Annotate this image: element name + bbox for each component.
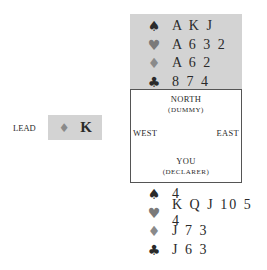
declarer-hearts-row: ♥ K Q J 10 5 4 <box>146 204 267 223</box>
dummy-clubs: 8 7 4 <box>172 74 210 90</box>
club-icon: ♣ <box>146 75 162 89</box>
heart-icon: ♥ <box>146 38 162 52</box>
dummy-spades-row: ♠ A K J <box>146 17 227 36</box>
dummy-hearts: A 6 3 2 <box>172 37 227 53</box>
north-label: NORTH <box>131 94 241 104</box>
lead-card-box: ♦ K <box>48 115 102 140</box>
dummy-diamonds: A 6 2 <box>172 55 212 71</box>
declarer-clubs-row: ♣ J 6 3 <box>146 241 267 260</box>
dummy-hand: ♠ A K J ♥ A 6 3 2 ♦ A 6 2 ♣ 8 7 4 <box>146 17 227 91</box>
diamond-icon: ♦ <box>56 122 72 134</box>
dummy-diamonds-row: ♦ A 6 2 <box>146 54 227 73</box>
heart-icon: ♥ <box>146 206 162 220</box>
table-frame: NORTH (DUMMY) WEST EAST YOU (DECLARER) <box>130 89 242 183</box>
spade-icon: ♠ <box>146 187 162 201</box>
declarer-clubs: J 6 3 <box>172 242 208 258</box>
dummy-spades: A K J <box>172 18 214 34</box>
spade-icon: ♠ <box>146 19 162 33</box>
declarer-hand: ♠ 4 ♥ K Q J 10 5 4 ♦ J 7 3 ♣ J 6 3 <box>146 185 267 259</box>
diamond-icon: ♦ <box>146 56 162 70</box>
west-label: WEST <box>133 128 157 138</box>
lead-label: LEAD <box>13 123 36 133</box>
lead-card: K <box>80 119 94 136</box>
east-label: EAST <box>217 128 239 138</box>
diamond-icon: ♦ <box>146 224 162 238</box>
south-label: YOU <box>131 156 241 166</box>
declarer-diamonds: J 7 3 <box>172 223 208 239</box>
south-sub-label: (DECLARER) <box>131 168 241 176</box>
north-sub-label: (DUMMY) <box>131 106 241 114</box>
dummy-hearts-row: ♥ A 6 3 2 <box>146 36 227 55</box>
club-icon: ♣ <box>146 243 162 257</box>
